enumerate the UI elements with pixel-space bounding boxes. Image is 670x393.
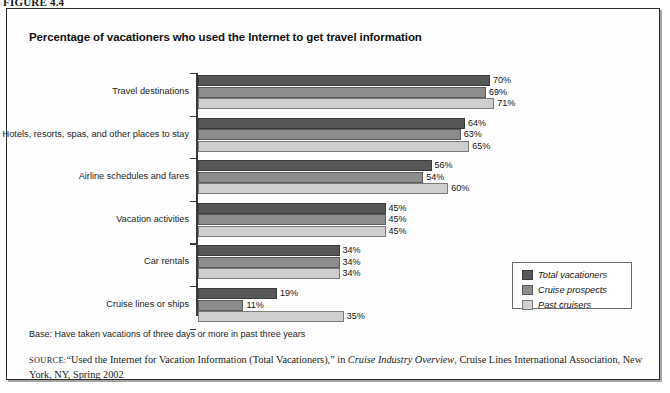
bar-row: 65% — [198, 141, 491, 152]
bar-total-vacationers — [198, 160, 432, 171]
bar-cruise-prospects — [198, 129, 461, 140]
legend-label: Past cruisers — [533, 300, 591, 310]
legend-items-container: Total vacationersCruise prospectsPast cr… — [513, 265, 631, 308]
bar-cruise-prospects — [198, 172, 424, 183]
figure-frame: Percentage of vacationers who used the I… — [6, 8, 660, 380]
axis-tick — [190, 116, 196, 117]
bar-stack: 56%54%60% — [198, 160, 470, 195]
source-publication-title: Cruise Industry Overview — [348, 354, 454, 365]
bar-stack: 70%69%71% — [198, 75, 516, 110]
category-label: Travel destinations — [112, 86, 189, 96]
base-note: Base: Have taken vacations of three days… — [29, 329, 305, 339]
bar-stack: 19%11%35% — [198, 288, 365, 323]
chart-title: Percentage of vacationers who used the I… — [29, 31, 422, 43]
axis-tick — [190, 286, 196, 287]
bar-group: Airline schedules and fares56%54%60% — [21, 160, 641, 196]
bar-cruise-prospects — [198, 257, 340, 268]
bar-value-label: 60% — [448, 183, 469, 194]
bar-row: 34% — [198, 268, 361, 279]
source-note: SOURCE:“Used the Internet for Vacation I… — [29, 353, 645, 382]
bar-value-label: 45% — [386, 203, 407, 214]
bar-total-vacationers — [198, 203, 386, 214]
axis-tick — [190, 73, 196, 74]
category-label: Hotels, resorts, spas, and other places … — [3, 129, 189, 139]
legend-item: Cruise prospects — [522, 280, 631, 293]
bar-total-vacationers — [198, 288, 277, 299]
bar-group: Hotels, resorts, spas, and other places … — [21, 118, 641, 154]
bar-past-cruisers — [198, 98, 495, 109]
bar-row: 45% — [198, 214, 407, 225]
legend-swatch-cruise-prospects — [522, 285, 533, 295]
bar-past-cruisers — [198, 311, 344, 322]
bar-stack: 45%45%45% — [198, 203, 407, 238]
bar-group: Travel destinations70%69%71% — [21, 75, 641, 111]
bar-past-cruisers — [198, 268, 340, 279]
axis-tick — [190, 201, 196, 202]
bar-row: 34% — [198, 245, 361, 256]
bar-row: 56% — [198, 160, 470, 171]
bar-row: 54% — [198, 172, 470, 183]
bar-row: 45% — [198, 203, 407, 214]
bar-row: 70% — [198, 75, 516, 86]
bar-past-cruisers — [198, 141, 470, 152]
bar-value-label: 35% — [344, 311, 365, 322]
bar-value-label: 34% — [340, 245, 361, 256]
bar-value-label: 63% — [461, 129, 482, 140]
bar-stack: 34%34%34% — [198, 245, 361, 280]
source-text-part1: “Used the Internet for Vacation Informat… — [66, 354, 347, 365]
legend-label: Cruise prospects — [533, 285, 607, 295]
bar-row: 19% — [198, 288, 365, 299]
axis-tick — [190, 243, 196, 244]
category-label: Airline schedules and fares — [79, 171, 189, 181]
legend-swatch-total-vacationers — [522, 270, 533, 280]
bar-row: 64% — [198, 118, 491, 129]
bar-row: 63% — [198, 129, 491, 140]
source-label: SOURCE: — [29, 356, 66, 365]
bar-row: 34% — [198, 257, 361, 268]
bar-value-label: 69% — [486, 87, 507, 98]
bar-group: Vacation activities45%45%45% — [21, 203, 641, 239]
bar-value-label: 54% — [423, 172, 444, 183]
legend-item: Past cruisers — [522, 295, 631, 308]
bar-value-label: 65% — [469, 141, 490, 152]
axis-tick — [190, 158, 196, 159]
legend-swatch-past-cruisers — [522, 300, 533, 310]
category-label: Cruise lines or ships — [106, 299, 189, 309]
bar-stack: 64%63%65% — [198, 118, 491, 153]
bar-value-label: 64% — [465, 118, 486, 129]
bar-row: 35% — [198, 311, 365, 322]
bar-cruise-prospects — [198, 87, 486, 98]
legend-item: Total vacationers — [522, 265, 631, 278]
legend-label: Total vacationers — [533, 270, 607, 280]
bar-total-vacationers — [198, 118, 466, 129]
category-label: Car rentals — [144, 256, 189, 266]
bar-row: 60% — [198, 183, 470, 194]
bar-value-label: 56% — [432, 160, 453, 171]
figure-caption: FIGURE 4.4 — [3, 0, 64, 8]
bar-cruise-prospects — [198, 214, 386, 225]
bar-row: 69% — [198, 87, 516, 98]
bar-total-vacationers — [198, 75, 491, 86]
bar-past-cruisers — [198, 183, 449, 194]
bar-value-label: 11% — [243, 300, 263, 311]
bar-value-label: 34% — [340, 257, 361, 268]
bar-value-label: 45% — [386, 226, 407, 237]
bar-row: 11% — [198, 300, 365, 311]
bar-row: 71% — [198, 98, 516, 109]
bar-value-label: 71% — [494, 98, 515, 109]
category-label: Vacation activities — [116, 214, 189, 224]
chart-legend: Total vacationersCruise prospectsPast cr… — [512, 262, 632, 309]
bar-past-cruisers — [198, 226, 386, 237]
bar-total-vacationers — [198, 245, 340, 256]
bar-value-label: 19% — [277, 288, 298, 299]
bar-value-label: 45% — [386, 214, 407, 225]
bar-value-label: 70% — [490, 75, 511, 86]
bar-cruise-prospects — [198, 300, 244, 311]
bar-row: 45% — [198, 226, 407, 237]
bar-value-label: 34% — [340, 268, 361, 279]
